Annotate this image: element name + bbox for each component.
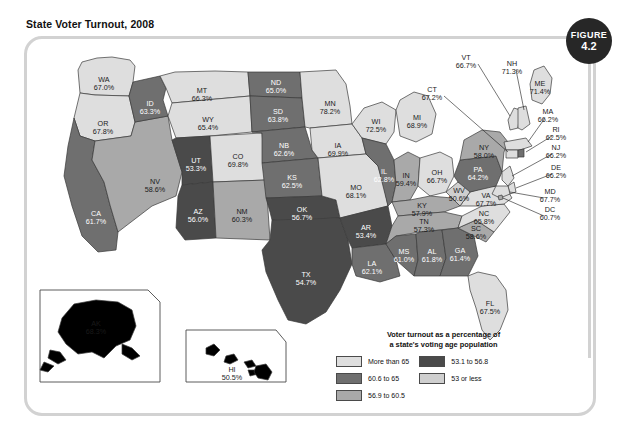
- legend-label: More than 65: [368, 358, 409, 365]
- state-value-nh: 71.3%: [502, 67, 523, 76]
- state-value-dc: 60.7%: [540, 213, 561, 222]
- state-value-va: 67.7%: [476, 199, 497, 208]
- state-value-in: 59.4%: [396, 179, 417, 188]
- state-value-mi: 68.9%: [407, 121, 428, 130]
- state-value-or: 67.8%: [93, 127, 114, 136]
- state-value-ak: 68.3%: [86, 327, 107, 336]
- state-value-ma: 66.2%: [538, 115, 559, 124]
- map-legend: Voter turnout as a percentage of a state…: [336, 330, 551, 401]
- legend-swatch: [419, 373, 445, 384]
- legend-swatch: [336, 373, 362, 384]
- figure-badge-word: FIGURE: [571, 30, 607, 40]
- state-value-md: 67.7%: [540, 195, 561, 204]
- legend-item: More than 65: [336, 356, 409, 367]
- figure-badge-number: 4.2: [581, 40, 596, 52]
- state-value-co: 69.8%: [228, 160, 249, 169]
- state-value-tn: 57.3%: [414, 225, 435, 234]
- state-value-ks: 62.5%: [282, 181, 303, 190]
- state-ct[interactable]: [506, 150, 518, 158]
- state-value-ia: 69.9%: [328, 149, 349, 158]
- legend-column-2: 53.1 to 56.853 or less: [419, 356, 488, 401]
- state-value-nb: 62.6%: [274, 149, 295, 158]
- state-ma[interactable]: [504, 138, 532, 150]
- state-value-fl: 67.5%: [480, 307, 501, 316]
- state-value-az: 56.0%: [188, 215, 209, 224]
- state-value-ga: 61.4%: [450, 254, 471, 263]
- state-value-oh: 66.7%: [427, 176, 448, 185]
- state-value-tx: 54.7%: [296, 278, 317, 287]
- legend-title: Voter turnout as a percentage of a state…: [336, 330, 551, 350]
- insets-layer: AK68.3%HI50.5%: [40, 290, 286, 382]
- state-value-vt: 66.7%: [456, 61, 477, 70]
- state-value-al: 61.8%: [422, 255, 443, 264]
- leader-line-nh: [516, 70, 524, 110]
- legend-item: 56.9 to 60.5: [336, 390, 409, 401]
- state-value-il: 62.8%: [374, 175, 395, 184]
- legend-label: 56.9 to 60.5: [368, 392, 405, 399]
- legend-swatch: [419, 356, 445, 367]
- legend-item: 53.1 to 56.8: [419, 356, 488, 367]
- state-value-ny: 58.0%: [474, 151, 495, 160]
- state-value-wa: 67.0%: [94, 83, 115, 92]
- state-dc[interactable]: [498, 195, 503, 200]
- state-value-mo: 68.1%: [346, 191, 367, 200]
- state-value-nj: 66.2%: [546, 151, 567, 160]
- state-value-id: 63.3%: [140, 107, 161, 116]
- state-value-pa: 64.2%: [468, 173, 489, 182]
- state-value-ct: 67.2%: [422, 93, 443, 102]
- state-value-sd: 63.8%: [268, 115, 289, 124]
- state-value-me: 71.4%: [530, 87, 551, 96]
- legend-item: 60.6 to 65: [336, 373, 409, 384]
- state-value-ms: 61.0%: [394, 255, 415, 264]
- state-value-hi: 50.5%: [222, 373, 243, 382]
- figure-badge: FIGURE 4.2: [566, 18, 612, 64]
- state-value-wy: 65.4%: [198, 123, 219, 132]
- legend-label: 53.1 to 56.8: [451, 358, 488, 365]
- legend-swatch: [336, 356, 362, 367]
- legend-column-1: More than 6560.6 to 6556.9 to 60.5: [336, 356, 409, 401]
- state-value-nc: 65.8%: [474, 217, 495, 226]
- state-value-sc: 58.6%: [466, 232, 487, 241]
- state-value-wv: 50.6%: [449, 194, 470, 203]
- state-value-nv: 58.6%: [145, 185, 166, 194]
- legend-swatch: [336, 390, 362, 401]
- legend-title-line1: Voter turnout as a percentage of: [336, 330, 551, 340]
- legend-item: 53 or less: [419, 373, 488, 384]
- state-value-ri: 62.5%: [546, 133, 567, 142]
- state-value-de: 66.2%: [546, 171, 567, 180]
- legend-label: 53 or less: [451, 375, 481, 382]
- state-value-nd: 65.0%: [266, 86, 287, 95]
- state-value-nm: 60.3%: [232, 215, 253, 224]
- state-value-ut: 53.3%: [186, 164, 207, 173]
- state-value-mn: 78.2%: [320, 107, 341, 116]
- legend-title-line2: a state's voting age population: [336, 340, 551, 350]
- state-value-wi: 72.5%: [366, 125, 387, 134]
- state-ri[interactable]: [518, 149, 524, 157]
- legend-label: 60.6 to 65: [368, 375, 399, 382]
- state-value-la: 62.1%: [362, 267, 383, 276]
- state-value-ok: 56.7%: [292, 213, 313, 222]
- state-value-ar: 53.4%: [356, 231, 377, 240]
- state-value-ca: 61.7%: [86, 217, 107, 226]
- state-value-mt: 66.3%: [192, 94, 213, 103]
